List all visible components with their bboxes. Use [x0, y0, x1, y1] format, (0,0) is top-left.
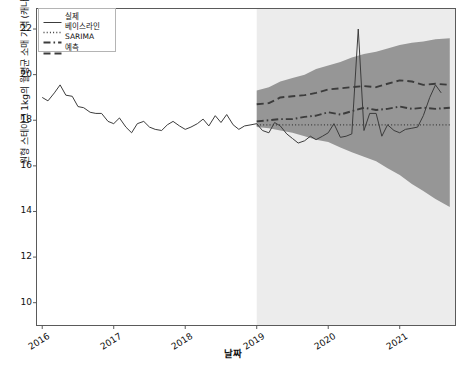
chart-plot-area — [0, 0, 465, 367]
y-tick-label: 22 — [2, 23, 32, 33]
legend-item-label: 예측 — [65, 43, 79, 52]
y-tick-label: 10 — [2, 297, 32, 307]
legend-item: 예측 — [43, 42, 111, 52]
legend-line-swatch — [43, 43, 62, 52]
y-tick-label: 20 — [2, 69, 32, 79]
legend-item: 베이스라인 — [43, 22, 111, 32]
chart-legend: 실제베이스라인SARIMA예측 — [38, 8, 116, 52]
chart-figure: 원형 스테이크 1kg의 월평균 소매 가격 (캐나다 달러) 날짜 10121… — [0, 0, 465, 367]
y-tick-label: 16 — [2, 160, 32, 170]
legend-item: SARIMA — [43, 32, 111, 42]
y-tick-label: 14 — [2, 205, 32, 215]
legend-line-swatch — [43, 12, 62, 21]
legend-item: 실제 — [43, 12, 111, 22]
y-tick-label: 12 — [2, 251, 32, 261]
legend-line-swatch — [43, 32, 62, 41]
legend-item-label: 베이스라인 — [65, 22, 100, 31]
legend-item-label: SARIMA — [65, 32, 94, 41]
legend-item-label: 실제 — [65, 12, 79, 21]
y-tick-label: 18 — [2, 114, 32, 124]
legend-line-swatch — [43, 22, 62, 31]
